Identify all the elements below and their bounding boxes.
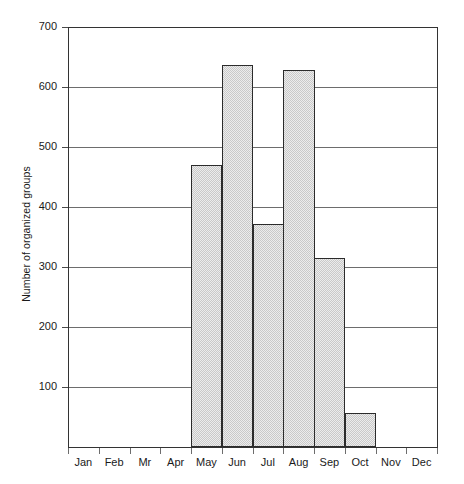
y-axis-tick-label: 200 bbox=[27, 321, 57, 332]
plot-top-border bbox=[68, 27, 438, 28]
x-axis-tick-label: Mr bbox=[130, 457, 161, 468]
x-axis-tick-label: Nov bbox=[376, 457, 407, 468]
x-axis-tick-mark bbox=[191, 448, 192, 454]
x-axis-tick-mark bbox=[314, 448, 315, 454]
x-axis-tick-label: Jul bbox=[253, 457, 284, 468]
bar bbox=[345, 413, 376, 447]
bar bbox=[283, 70, 314, 447]
x-axis-tick-label: Jun bbox=[222, 457, 253, 468]
x-axis-tick-label: Sep bbox=[314, 457, 345, 468]
bar bbox=[191, 165, 222, 447]
x-axis-tick-mark bbox=[283, 448, 284, 454]
bar bbox=[222, 65, 253, 447]
x-axis-tick-mark bbox=[222, 448, 223, 454]
x-axis-tick-mark bbox=[160, 448, 161, 454]
x-axis-tick-mark bbox=[68, 448, 69, 454]
y-axis-tick-label: 400 bbox=[27, 201, 57, 212]
y-axis-tick-label: 600 bbox=[27, 81, 57, 92]
x-axis-tick-label: Jan bbox=[68, 457, 99, 468]
x-axis-tick-label: Apr bbox=[160, 457, 191, 468]
y-axis-line bbox=[68, 27, 69, 448]
y-axis-tick-label: 500 bbox=[27, 141, 57, 152]
x-axis-tick-label: May bbox=[191, 457, 222, 468]
y-axis-tick-label: 100 bbox=[27, 381, 57, 392]
x-axis-tick-mark bbox=[376, 448, 377, 454]
x-axis-tick-mark bbox=[406, 448, 407, 454]
bar bbox=[314, 258, 345, 447]
x-axis-tick-mark bbox=[99, 448, 100, 454]
x-axis-tick-label: Feb bbox=[99, 457, 130, 468]
x-axis-tick-label: Oct bbox=[345, 457, 376, 468]
x-axis-tick-mark bbox=[253, 448, 254, 454]
y-axis-tick-label: 300 bbox=[27, 261, 57, 272]
y-axis-tick-label: 700 bbox=[27, 21, 57, 32]
plot-right-border bbox=[437, 27, 438, 448]
x-axis-tick-mark bbox=[345, 448, 346, 454]
bar bbox=[253, 224, 284, 447]
x-axis-tick-mark-end bbox=[437, 448, 438, 454]
y-axis-title: Number of organized groups bbox=[20, 124, 32, 344]
x-axis-tick-label: Aug bbox=[283, 457, 314, 468]
bar-chart: Number of organized groups 1002003004005… bbox=[0, 0, 464, 484]
x-axis-tick-mark bbox=[130, 448, 131, 454]
x-axis-tick-label: Dec bbox=[406, 457, 437, 468]
